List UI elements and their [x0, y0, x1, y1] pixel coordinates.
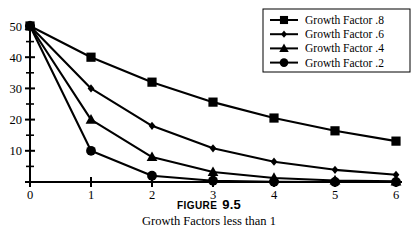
marker-circle — [269, 177, 279, 187]
marker-square — [208, 98, 217, 107]
marker-square — [330, 126, 339, 135]
figure-caption-heading: FIGURE9.5 — [0, 198, 418, 212]
y-tick-label: 40 — [10, 51, 23, 65]
y-tick-label: 50 — [10, 20, 23, 34]
y-tick-label: 30 — [10, 82, 23, 96]
marker-diamond — [332, 166, 339, 174]
marker-circle — [391, 177, 401, 187]
figure-container: 1020304050 0123456 Growth Factor .8Growt… — [0, 0, 418, 241]
marker-circle — [25, 21, 35, 31]
marker-square — [280, 16, 288, 24]
chart-legend: Growth Factor .8Growth Factor .6Growth F… — [263, 9, 410, 72]
y-tick-label: 20 — [10, 113, 23, 127]
marker-circle — [280, 58, 289, 67]
legend-label: Growth Factor .6 — [305, 28, 384, 40]
figure-caption-title: Growth Factors less than 1 — [0, 213, 418, 229]
marker-diamond — [271, 158, 278, 166]
marker-circle — [147, 171, 157, 181]
figure-number: 9.5 — [222, 197, 241, 212]
marker-square — [147, 78, 156, 87]
y-tick-label: 10 — [10, 144, 23, 158]
marker-circle — [330, 177, 340, 187]
legend-label: Growth Factor .8 — [305, 14, 384, 26]
figure-label: FIGURE — [177, 200, 217, 211]
marker-square — [391, 137, 400, 146]
marker-triangle — [147, 151, 158, 161]
legend-label: Growth Factor .2 — [305, 57, 384, 69]
marker-circle — [208, 176, 218, 186]
marker-diamond — [149, 122, 156, 130]
marker-square — [86, 53, 95, 62]
figure-caption: FIGURE9.5 Growth Factors less than 1 — [0, 198, 418, 229]
marker-diamond — [210, 144, 217, 152]
marker-circle — [86, 146, 96, 156]
marker-square — [269, 113, 278, 122]
y-axis-tick-labels: 1020304050 — [10, 20, 23, 159]
legend-label: Growth Factor .4 — [305, 42, 384, 54]
